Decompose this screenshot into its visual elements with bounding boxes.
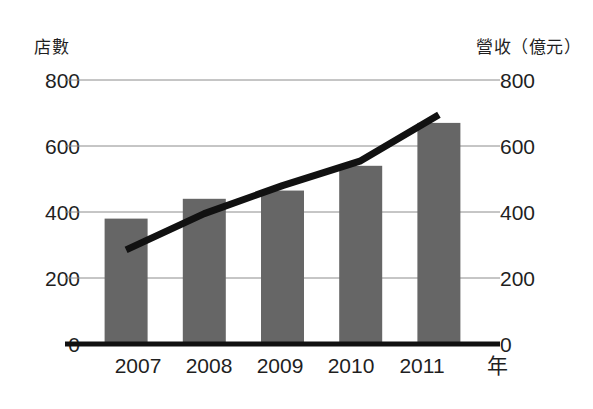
bar-2010 — [339, 166, 382, 344]
chart-container: 店數 營收（億元） 800 600 400 200 0 800 600 400 … — [0, 0, 593, 409]
bar-2007 — [105, 219, 148, 344]
plot-area — [0, 0, 593, 409]
bar-2009 — [261, 191, 304, 344]
bar-2011 — [417, 123, 460, 344]
